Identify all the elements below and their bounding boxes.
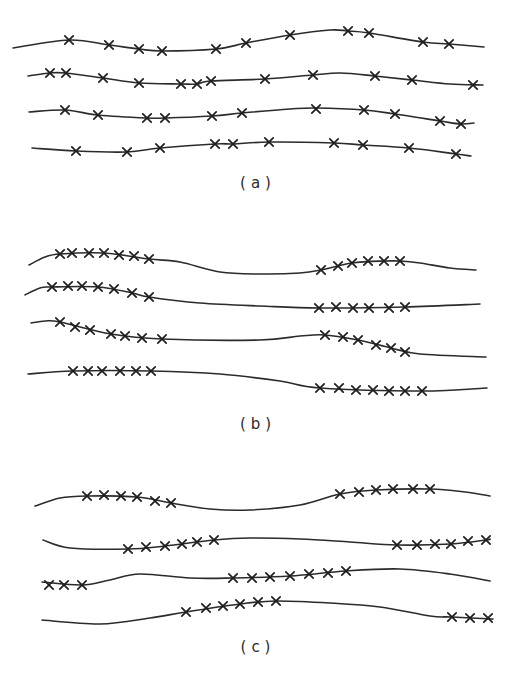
x-marker-icon <box>464 537 472 545</box>
strand-line <box>35 489 490 510</box>
panel-c <box>35 485 493 624</box>
strand-row-2 <box>43 536 490 553</box>
strand-row-2 <box>28 69 483 89</box>
strand-line <box>42 601 493 624</box>
strand-row-4 <box>28 367 487 395</box>
strand-row-2 <box>25 282 480 312</box>
strand-line <box>31 321 486 357</box>
panel-label-a: (a) <box>240 174 276 192</box>
strand-row-4 <box>42 597 493 624</box>
x-marker-icon <box>100 491 108 499</box>
strand-line <box>25 287 480 309</box>
strand-line <box>43 538 490 549</box>
strand-row-3 <box>42 567 490 589</box>
x-marker-icon <box>332 303 340 311</box>
panel-b <box>25 249 487 395</box>
strand-row-3 <box>31 318 486 357</box>
strand-diagram <box>0 0 511 681</box>
strand-row-1 <box>35 485 490 511</box>
panel-label-c: (c) <box>241 638 276 656</box>
strand-row-1 <box>13 27 484 55</box>
panel-label-b: (b) <box>240 415 276 433</box>
strand-row-1 <box>29 249 476 274</box>
panel-a <box>13 27 484 158</box>
strand-line <box>42 569 490 585</box>
x-marker-icon <box>312 105 320 113</box>
strand-line <box>29 253 476 274</box>
strand-row-4 <box>32 138 471 158</box>
strand-row-3 <box>29 105 474 128</box>
strand-line <box>29 108 474 124</box>
x-marker-icon <box>335 384 343 392</box>
